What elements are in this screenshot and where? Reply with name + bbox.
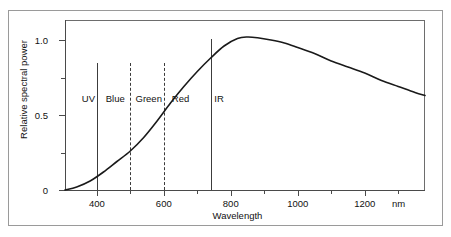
y-axis-line	[65, 20, 66, 190]
x-tick-major	[365, 190, 366, 196]
y-tick-major	[59, 40, 65, 41]
band-label-blue: Blue	[106, 93, 125, 104]
y-tick-major	[59, 115, 65, 116]
band-divider-400nm	[97, 63, 98, 191]
band-label-red: Red	[172, 93, 189, 104]
x-tick-minor	[331, 190, 332, 194]
x-tick-minor	[398, 190, 399, 194]
x-tick-label: 400	[67, 198, 127, 209]
plot-area-box	[65, 20, 425, 190]
y-tick-label: 0	[8, 185, 48, 196]
x-tick-label: 600	[134, 198, 194, 209]
x-tick-label: 800	[201, 198, 261, 209]
spectral-power-figure: 00.51.0 40060080010001200 nm Wavelength …	[0, 0, 451, 237]
y-tick-major	[59, 190, 65, 191]
band-divider-500nm	[130, 63, 131, 191]
x-tick-label: 1200	[335, 198, 395, 209]
x-axis-line	[65, 190, 425, 191]
x-tick-major	[231, 190, 232, 196]
band-divider-740nm	[211, 39, 212, 191]
band-label-uv: UV	[82, 93, 95, 104]
y-tick-minor	[61, 78, 65, 79]
band-divider-600nm	[164, 63, 165, 191]
band-label-ir: IR	[214, 93, 224, 104]
x-tick-major	[97, 190, 98, 196]
y-axis-title: Relative spectral power	[18, 15, 29, 165]
x-axis-title: Wavelength	[0, 210, 451, 221]
x-tick-major	[164, 190, 165, 196]
x-tick-minor	[130, 190, 131, 194]
band-label-green: Green	[136, 93, 162, 104]
x-tick-minor	[264, 190, 265, 194]
x-tick-label: 1000	[268, 198, 328, 209]
x-tick-minor	[197, 190, 198, 194]
x-axis-unit-label: nm	[392, 198, 405, 209]
y-tick-minor	[61, 153, 65, 154]
x-tick-major	[298, 190, 299, 196]
